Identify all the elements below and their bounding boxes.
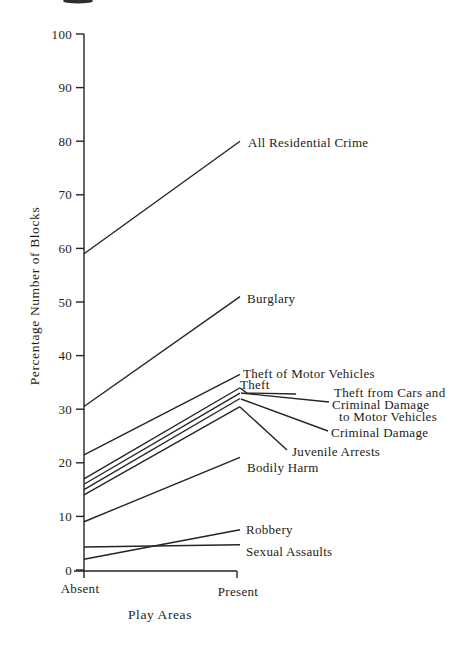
series-line-bodily-harm xyxy=(84,457,240,521)
series-line-criminal-damage xyxy=(84,398,240,489)
y-tick-label-30: 30 xyxy=(58,402,72,417)
y-tick-label-80: 80 xyxy=(58,134,72,149)
y-tick-label-40: 40 xyxy=(58,348,72,363)
x-category-absent: Absent xyxy=(61,581,100,596)
slope-chart-svg: 0102030405060708090100AbsentPresentPlay … xyxy=(0,0,475,646)
series-label-theft-from-cars-and-criminal-damage-to-motor-vehicles-line3: to Motor Vehicles xyxy=(339,409,437,424)
x-category-present: Present xyxy=(218,584,258,599)
y-tick-label-0: 0 xyxy=(65,563,72,578)
series-label-all-residential-crime: All Residential Crime xyxy=(248,135,368,150)
series-line-burglary xyxy=(84,297,240,407)
series-label-juvenile-arrests: Juvenile Arrests xyxy=(292,444,380,459)
series-label-burglary: Burglary xyxy=(247,291,296,306)
series-label-bodily-harm: Bodily Harm xyxy=(247,460,319,475)
series-line-all-residential-crime xyxy=(84,141,240,254)
series-label-theft: Theft xyxy=(240,377,270,392)
y-tick-label-100: 100 xyxy=(52,27,72,42)
y-tick-label-20: 20 xyxy=(58,455,72,470)
y-tick-label-90: 90 xyxy=(58,80,72,95)
series-line-theft-of-motor-vehicles xyxy=(84,374,240,454)
y-tick-label-70: 70 xyxy=(58,187,72,202)
y-tick-label-10: 10 xyxy=(58,509,72,524)
x-axis-title: Play Areas xyxy=(128,607,192,622)
y-tick-label-60: 60 xyxy=(58,241,72,256)
series-line-theft-from-cars-and-criminal-damage-to-motor-vehicles xyxy=(84,393,240,484)
series-line-theft xyxy=(84,388,240,479)
label-leader-criminal-damage xyxy=(241,399,328,431)
series-label-robbery: Robbery xyxy=(246,522,293,537)
y-tick-label-50: 50 xyxy=(58,295,72,310)
scan-artifact xyxy=(63,0,93,4)
y-axis-title: Percentage Number of Blocks xyxy=(27,207,42,386)
series-line-juvenile-arrests xyxy=(84,407,240,495)
crime-slope-figure: 0102030405060708090100AbsentPresentPlay … xyxy=(0,0,475,646)
series-label-sexual-assaults: Sexual Assaults xyxy=(246,544,332,559)
series-label-criminal-damage: Criminal Damage xyxy=(331,425,428,440)
